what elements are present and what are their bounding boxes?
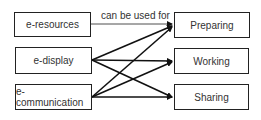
node-label: e-communication bbox=[16, 86, 91, 108]
node-label: Sharing bbox=[194, 92, 228, 103]
node-preparing: Preparing bbox=[174, 12, 250, 38]
edge-label: can be used for bbox=[101, 10, 170, 21]
edge-ecommunication-preparing bbox=[92, 27, 172, 97]
edge-edisplay-working bbox=[92, 60, 172, 61]
node-e-resources: e-resources bbox=[14, 12, 91, 37]
node-working: Working bbox=[174, 48, 249, 74]
node-e-display: e-display bbox=[15, 47, 92, 74]
node-label: e-display bbox=[33, 55, 73, 66]
node-label: e-resources bbox=[26, 19, 79, 30]
node-label: Working bbox=[193, 56, 230, 67]
node-label: Preparing bbox=[190, 20, 233, 31]
edge-edisplay-preparing bbox=[92, 26, 172, 60]
node-e-communication: e-communication bbox=[15, 84, 92, 110]
node-sharing: Sharing bbox=[174, 84, 249, 110]
